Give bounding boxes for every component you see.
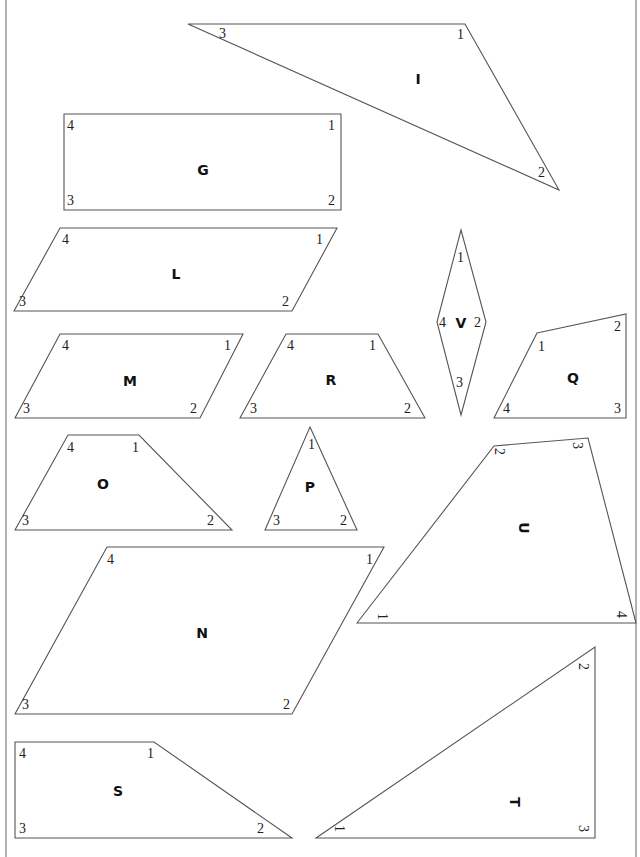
vertex-number: 3 [250, 401, 257, 416]
shape-label: M [123, 373, 137, 389]
shape-outline [494, 314, 626, 418]
shape-q: 1243Q [494, 314, 626, 418]
vertex-number: 2 [538, 165, 545, 180]
vertex-number: 4 [614, 611, 629, 618]
vertex-number: 3 [219, 26, 226, 41]
vertex-number: 2 [340, 513, 347, 528]
vertex-number: 2 [207, 513, 214, 528]
vertex-number: 3 [19, 294, 26, 309]
vertex-number: 4 [19, 746, 26, 761]
shape-label: G [197, 162, 209, 178]
shape-outline [357, 438, 636, 623]
shape-t: 123T [316, 647, 595, 838]
vertex-number: 4 [107, 552, 114, 567]
vertex-number: 3 [22, 513, 29, 528]
shape-n: 4132N [15, 547, 384, 714]
vertex-number: 2 [474, 315, 481, 330]
shape-label: R [326, 372, 337, 388]
vertex-number: 1 [328, 118, 335, 133]
shape-label: Q [567, 370, 579, 386]
vertex-number: 1 [375, 613, 390, 620]
vertex-number: 3 [67, 193, 74, 208]
shape-outline [316, 647, 595, 838]
vertex-number: 4 [67, 118, 74, 133]
vertex-number: 3 [576, 825, 591, 832]
shape-label: U [516, 522, 532, 533]
vertex-number: 3 [456, 375, 463, 390]
shape-label: N [196, 625, 208, 641]
vertex-number: 2 [257, 821, 264, 836]
vertex-number: 2 [190, 401, 197, 416]
shape-label: S [113, 783, 123, 799]
shape-label: I [415, 71, 420, 87]
vertex-number: 4 [439, 315, 446, 330]
shapes-canvas: 312I4132G4132L4132M4132R1243V1243Q4132O1… [0, 0, 640, 857]
shape-u: 1234U [357, 438, 636, 623]
vertex-number: 2 [328, 193, 335, 208]
vertex-number: 2 [404, 401, 411, 416]
vertex-number: 2 [492, 448, 507, 455]
vertex-number: 1 [224, 338, 231, 353]
shape-o: 4132O [15, 435, 232, 530]
shape-label: T [507, 797, 523, 807]
vertex-number: 1 [457, 27, 464, 42]
shape-g: 4132G [64, 114, 341, 210]
vertex-number: 1 [369, 338, 376, 353]
vertex-number: 2 [614, 319, 621, 334]
shape-label: V [456, 315, 467, 331]
vertex-number: 4 [503, 401, 510, 416]
vertex-number: 1 [366, 552, 373, 567]
vertex-number: 1 [308, 437, 315, 452]
vertex-number: 4 [62, 338, 69, 353]
shape-r: 4132R [240, 334, 425, 418]
vertex-number: 3 [19, 821, 26, 836]
vertex-number: 1 [132, 440, 139, 455]
vertex-number: 3 [614, 401, 621, 416]
vertex-number: 2 [283, 697, 290, 712]
shape-label: O [97, 476, 109, 492]
shape-label: P [305, 479, 315, 495]
vertex-number: 4 [62, 232, 69, 247]
shapes-layer: 312I4132G4132L4132M4132R1243V1243Q4132O1… [14, 24, 636, 838]
vertex-number: 2 [576, 663, 591, 670]
vertex-number: 1 [332, 825, 347, 832]
vertex-number: 1 [147, 746, 154, 761]
vertex-number: 3 [23, 401, 30, 416]
vertex-number: 4 [287, 338, 294, 353]
vertex-number: 3 [22, 697, 29, 712]
shape-m: 4132M [15, 334, 243, 418]
vertex-number: 1 [316, 232, 323, 247]
vertex-number: 2 [282, 294, 289, 309]
vertex-number: 4 [67, 440, 74, 455]
vertex-number: 1 [538, 339, 545, 354]
shape-v: 1243V [437, 230, 486, 415]
shape-s: 4132S [15, 742, 292, 838]
shape-l: 4132L [14, 228, 337, 311]
vertex-number: 3 [570, 442, 585, 449]
shape-p: 132P [265, 427, 357, 530]
shape-label: L [172, 266, 181, 282]
shape-outline [15, 435, 232, 530]
vertex-number: 1 [457, 250, 464, 265]
vertex-number: 3 [273, 513, 280, 528]
